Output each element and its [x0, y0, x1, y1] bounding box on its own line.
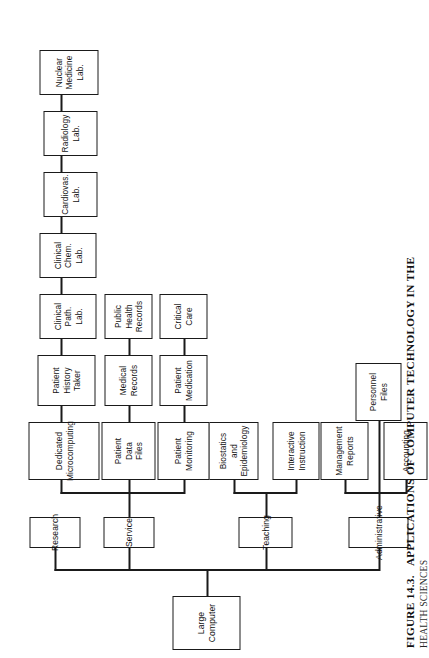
figure-number: FIGURE 14.3.: [404, 575, 416, 648]
node-research[interactable]: Research: [29, 517, 80, 548]
connector-main-spine: [54, 569, 379, 571]
node-teaching[interactable]: Teaching: [238, 517, 292, 548]
node-cardiovas-lab[interactable]: Cardiovas. Lab.: [43, 172, 97, 217]
node-interactive-instruction[interactable]: Interactive Instruction: [272, 422, 319, 480]
connector-service-out: [128, 493, 130, 517]
figure-caption: FIGURE 14.3.APPLICATIONS OF COMPUTER TEC…: [404, 48, 429, 648]
node-patient-monitoring[interactable]: Patient Monitoring: [157, 422, 209, 480]
connector-admin-personnel: [378, 421, 380, 494]
connector-teaching-out: [265, 493, 267, 517]
connector-datafiles-medrec: [128, 406, 130, 422]
node-service[interactable]: Service: [103, 517, 154, 548]
node-radiology-lab[interactable]: Radiology Lab.: [43, 111, 97, 156]
connector-service-bus: [60, 492, 184, 494]
connector-teaching-interactive: [295, 480, 297, 494]
connector-teaching-biostat: [233, 480, 235, 494]
figure-title: APPLICATIONS OF COMPUTER TECHNOLOGY IN T…: [404, 257, 416, 566]
connector-spine-service: [128, 548, 130, 571]
node-patient-data-files[interactable]: Patient Data Files: [101, 422, 155, 480]
connector-admin-bus: [344, 492, 406, 494]
node-personnel-files[interactable]: Personnel Files: [355, 363, 401, 421]
node-nuclear-medicine-lab[interactable]: Nuclear Medicine Lab.: [39, 50, 98, 95]
connector-medication-critical: [183, 339, 185, 355]
connector-admin-mgmt: [344, 480, 346, 494]
node-patient-history-taker[interactable]: Patient History Taker: [37, 355, 95, 406]
node-large-computer[interactable]: Large Computer: [172, 596, 240, 650]
connector-service-monitoring: [183, 480, 185, 494]
connector-service-micro: [60, 480, 62, 494]
node-dedicated-microcomputing[interactable]: Dedicated Microcomputing: [28, 422, 99, 480]
connector-cpath-cchem: [60, 278, 62, 294]
figure-caption-line1: FIGURE 14.3.APPLICATIONS OF COMPUTER TEC…: [404, 48, 416, 648]
connector-spine-research: [54, 548, 56, 571]
connector-radiology-nucmed: [60, 95, 62, 111]
node-patient-medication[interactable]: Patient Medication: [159, 355, 207, 406]
node-biostatics-epidemiology[interactable]: Biostatics and Epidemiology: [208, 422, 258, 480]
connector-cardio-radiology: [60, 156, 62, 172]
connector-medrec-pubhealth: [128, 339, 130, 355]
node-administrative[interactable]: Administrative: [348, 517, 408, 548]
figure-caption-line2: HEALTH SCIENCES: [418, 48, 429, 648]
connector-histtaker-cpath: [60, 339, 62, 355]
node-critical-care[interactable]: Critical Care: [159, 294, 207, 339]
connector-monitoring-medication: [183, 406, 185, 422]
connector-cchem-cardio: [60, 217, 62, 233]
connector-service-datafiles: [128, 480, 130, 494]
connector-teaching-bus: [233, 492, 296, 494]
node-clinical-path-lab[interactable]: Clinical Path. Lab.: [39, 294, 96, 339]
node-management-reports[interactable]: Management Reports: [320, 422, 368, 480]
node-public-health-records[interactable]: Public Health Records: [104, 294, 152, 339]
connector-spine-teaching: [265, 548, 267, 571]
connector-root-stub: [206, 570, 208, 596]
node-medical-records[interactable]: Medical Records: [104, 355, 152, 406]
connector-micro-histtaker: [60, 406, 62, 422]
node-clinical-chem-lab[interactable]: Clinical Chem. Lab.: [39, 233, 96, 278]
